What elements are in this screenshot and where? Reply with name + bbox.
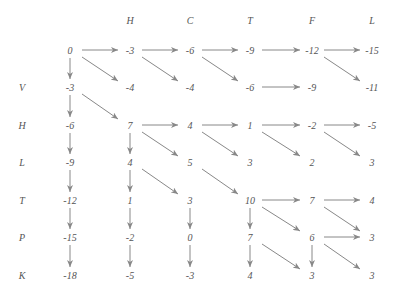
row-label: T — [19, 195, 25, 206]
diagonal-arrow-icon — [202, 57, 238, 81]
cell-value: 4 — [248, 270, 253, 281]
column-label: T — [247, 15, 253, 26]
cell-value: -6 — [66, 120, 74, 131]
diagonal-arrow-icon — [324, 132, 360, 156]
cell-value: -4 — [126, 82, 134, 93]
diagonal-arrow-icon — [262, 132, 300, 156]
cell-value: 6 — [310, 232, 315, 243]
column-label: H — [126, 15, 133, 26]
row-label: K — [19, 270, 26, 281]
row-label: P — [19, 232, 25, 243]
cell-value: -3 — [66, 82, 74, 93]
column-label: F — [309, 15, 315, 26]
cell-value: 4 — [370, 195, 375, 206]
cell-value: 4 — [128, 157, 133, 168]
cell-value: 5 — [188, 157, 193, 168]
row-label: L — [19, 157, 25, 168]
diagonal-arrow-icon — [82, 94, 118, 119]
diagonal-arrow-icon — [82, 57, 118, 81]
cell-value: -18 — [63, 270, 76, 281]
cell-value: -3 — [186, 270, 194, 281]
cell-value: 3 — [248, 157, 253, 168]
row-label: H — [18, 120, 25, 131]
alignment-grid: HCTFLVHLTPK0-3-6-9-12-15-3-4-4-6-9-11-67… — [0, 0, 393, 295]
cell-value: -15 — [63, 232, 76, 243]
cell-value: -3 — [126, 45, 134, 56]
cell-value: 7 — [310, 195, 315, 206]
diagonal-arrow-icon — [262, 244, 300, 269]
diagonal-arrow-icon — [202, 132, 238, 156]
cell-value: -6 — [246, 82, 254, 93]
cell-value: -2 — [308, 120, 316, 131]
diagonal-arrow-icon — [202, 169, 238, 194]
cell-value: -2 — [126, 232, 134, 243]
cell-value: 1 — [248, 120, 253, 131]
cell-value: 7 — [128, 120, 133, 131]
diagonal-arrow-icon — [142, 169, 178, 194]
cell-value: -9 — [308, 82, 316, 93]
cell-value: -15 — [365, 45, 378, 56]
cell-value: 4 — [188, 120, 193, 131]
cell-value: 3 — [370, 232, 375, 243]
cell-value: 10 — [245, 195, 255, 206]
cell-value: 0 — [68, 45, 73, 56]
cell-value: -12 — [305, 45, 318, 56]
cell-value: -12 — [63, 195, 76, 206]
column-label: L — [369, 15, 375, 26]
diagonal-arrow-icon — [324, 244, 360, 269]
cell-value: -6 — [186, 45, 194, 56]
cell-value: -4 — [186, 82, 194, 93]
diagonal-arrow-icon — [262, 207, 300, 231]
cell-value: -11 — [366, 82, 379, 93]
cell-value: 1 — [128, 195, 133, 206]
cell-value: -9 — [246, 45, 254, 56]
traceback-arrows — [0, 0, 393, 295]
cell-value: 7 — [248, 232, 253, 243]
diagonal-arrow-icon — [142, 57, 178, 81]
diagonal-arrow-icon — [142, 132, 178, 156]
cell-value: -5 — [368, 120, 376, 131]
cell-value: -5 — [126, 270, 134, 281]
cell-value: 3 — [310, 270, 315, 281]
cell-value: -9 — [66, 157, 74, 168]
cell-value: 3 — [370, 157, 375, 168]
diagonal-arrow-icon — [324, 207, 360, 231]
diagonal-arrow-icon — [324, 57, 360, 81]
cell-value: 2 — [310, 157, 315, 168]
column-label: C — [187, 15, 194, 26]
cell-value: 0 — [188, 232, 193, 243]
cell-value: 3 — [370, 270, 375, 281]
cell-value: 3 — [188, 195, 193, 206]
row-label: V — [19, 82, 25, 93]
